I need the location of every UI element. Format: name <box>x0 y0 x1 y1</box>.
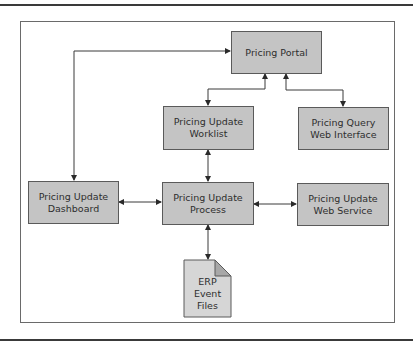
node-label: Pricing Update Process <box>173 192 242 216</box>
node-pricing-update-dashboard: Pricing Update Dashboard <box>28 181 119 224</box>
node-pricing-update-web-service: Pricing Update Web Service <box>297 183 389 226</box>
node-pricing-update-process: Pricing Update Process <box>162 182 254 225</box>
node-erp-event-files-label: ERP Event Files <box>184 276 231 312</box>
node-pricing-update-worklist: Pricing Update Worklist <box>163 106 254 150</box>
node-pricing-portal: Pricing Portal <box>231 31 322 74</box>
node-label: Pricing Update Worklist <box>174 116 243 140</box>
node-label: Pricing Query Web Interface <box>310 117 376 141</box>
edge-portal-worklist <box>208 74 265 105</box>
edge-portal-query <box>286 74 343 106</box>
node-label: Pricing Update Dashboard <box>39 191 108 215</box>
node-label: Pricing Update Web Service <box>308 193 377 217</box>
node-pricing-query-web-interface: Pricing Query Web Interface <box>298 107 389 150</box>
node-label: Pricing Portal <box>245 47 307 59</box>
